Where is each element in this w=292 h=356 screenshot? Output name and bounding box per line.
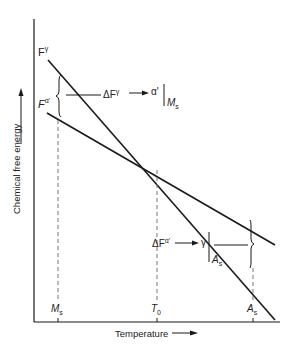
f-gamma-line <box>48 60 275 320</box>
upper-ms-label: Ms <box>167 98 179 110</box>
x-axis-label: Temperature <box>115 328 168 339</box>
upper-delta-f-label: ΔFγ <box>103 88 119 100</box>
t0-tick-label: T0 <box>151 304 161 316</box>
x-label-arrow-head <box>190 331 198 336</box>
lower-product-label: γ <box>201 238 206 248</box>
f-gamma-label: Fγ <box>38 45 48 58</box>
lower-as-label: As <box>212 255 222 267</box>
y-label-arrow-head <box>19 88 24 96</box>
as-tick-label: As <box>247 304 257 316</box>
f-alpha-prime-label: Fα' <box>38 97 50 110</box>
right-brace <box>250 220 254 268</box>
y-axis-label: Chemical free energy <box>11 124 22 214</box>
f-alpha-prime-line <box>47 113 275 245</box>
left-brace <box>56 75 61 117</box>
upper-product-label: α' <box>151 87 159 97</box>
upper-arrow-head <box>142 91 149 96</box>
lower-arrow-head <box>192 241 199 246</box>
lower-delta-f-label: ΔFα' <box>152 237 170 249</box>
ms-tick-label: Ms <box>51 304 63 316</box>
